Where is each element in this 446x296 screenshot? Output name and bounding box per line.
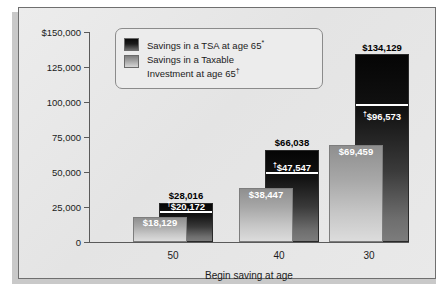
y-tick-125000 <box>84 67 89 68</box>
y-axis-line <box>89 32 90 242</box>
y-tick-25000 <box>84 207 89 208</box>
y-tick-150000 <box>84 32 89 33</box>
bar-group-30: $134,129 †$96,573 $69,459 30 <box>329 32 409 242</box>
value-label-tsa-inner-30: †$96,573 <box>363 110 401 122</box>
legend-item-taxable[interactable]: Savings in a TaxableInvestment at age 65… <box>124 54 314 80</box>
y-tick-label-75000: 75,000 <box>52 132 81 143</box>
value-label-taxable-50: $18,129 <box>143 217 177 228</box>
asterisk-marker: * <box>261 39 264 46</box>
value-label-taxable-30: $69,459 <box>339 146 373 157</box>
value-label-tsa-40: $66,038 <box>275 137 309 148</box>
y-tick-label-150000: $150,000 <box>41 27 81 38</box>
chart-panel: $150,000 125,000 100,000 75,000 50,000 2… <box>18 7 436 279</box>
legend-item-tsa[interactable]: Savings in a TSA at age 65* <box>124 37 314 52</box>
value-label-taxable-40: $38,447 <box>249 189 283 200</box>
chart-screenshot: $150,000 125,000 100,000 75,000 50,000 2… <box>0 0 446 296</box>
y-tick-75000 <box>84 137 89 138</box>
y-tick-0 <box>84 242 89 243</box>
legend-swatch-light-icon <box>124 55 139 68</box>
y-tick-100000 <box>84 102 89 103</box>
y-tick-label-125000: 125,000 <box>47 62 81 73</box>
x-tick-label-50: 50 <box>167 250 178 261</box>
y-axis-labels: $150,000 125,000 100,000 75,000 50,000 2… <box>19 32 81 242</box>
y-tick-label-50000: 50,000 <box>52 167 81 178</box>
x-tick-label-30: 30 <box>363 250 374 261</box>
x-tick-label-40: 40 <box>273 250 284 261</box>
legend-label-taxable: Savings in a TaxableInvestment at age 65… <box>147 54 240 80</box>
chart-legend: Savings in a TSA at age 65* Savings in a… <box>115 28 323 89</box>
bar-taxable-30[interactable] <box>329 145 383 242</box>
y-tick-label-100000: 100,000 <box>47 97 81 108</box>
x-axis-line <box>89 242 409 243</box>
y-tick-label-25000: 25,000 <box>52 202 81 213</box>
bar-divider-30 <box>356 104 408 106</box>
value-label-tsa-30: $134,129 <box>362 42 402 53</box>
x-axis-title: Begin saving at age <box>89 270 409 281</box>
value-label-tsa-inner-40: †$47,547 <box>273 161 311 173</box>
dagger-marker: † <box>236 67 240 74</box>
legend-label-tsa: Savings in a TSA at age 65* <box>147 37 264 52</box>
y-tick-label-0: 0 <box>76 237 81 248</box>
y-tick-50000 <box>84 172 89 173</box>
legend-swatch-dark-icon <box>124 38 139 51</box>
value-label-tsa-inner-50: †$20,172 <box>167 200 205 212</box>
